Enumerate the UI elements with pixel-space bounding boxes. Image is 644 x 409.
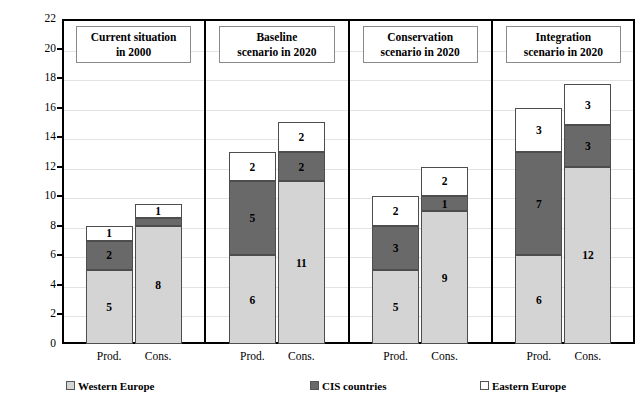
bar-value-label: 6: [230, 295, 275, 307]
y-tick-label: 16: [30, 102, 56, 114]
bar-value-label: 1: [87, 228, 132, 240]
bar-segment[interactable]: [135, 218, 182, 225]
y-tick-label: 14: [30, 131, 56, 143]
stacked-bar[interactable]: 1122: [278, 122, 325, 344]
bar-segment[interactable]: 5: [372, 270, 419, 344]
panel-title-line1: Integration: [507, 30, 620, 45]
y-tick-label: 22: [30, 13, 56, 25]
y-tick-mark: [57, 284, 63, 286]
bar-segment[interactable]: 2: [278, 152, 325, 182]
y-tick-mark: [57, 166, 63, 168]
y-tick-label: 20: [30, 43, 56, 55]
panel-title-line1: Current situation: [77, 30, 190, 45]
legend-swatch-icon: [66, 381, 75, 390]
panel-title-line2: scenario in 2020: [507, 45, 620, 60]
bar-value-label: 2: [373, 206, 418, 218]
stacked-bar[interactable]: 912: [421, 167, 468, 344]
bar-value-label: 9: [422, 273, 467, 285]
panel-title-box: Integrationscenario in 2020: [506, 26, 621, 63]
bar-segment[interactable]: 2: [421, 167, 468, 197]
legend-item[interactable]: Western Europe: [66, 379, 155, 395]
bar-value-label: 8: [136, 280, 181, 292]
stacked-bar-chart: Amount (in million cubic metres) 0246810…: [0, 0, 644, 409]
bar-value-label: 2: [230, 162, 275, 174]
panel-title-box: Conservationscenario in 2020: [363, 26, 478, 63]
y-tick-label: 2: [30, 308, 56, 320]
legend-label: Eastern Europe: [492, 380, 566, 392]
legend-item[interactable]: Eastern Europe: [480, 379, 566, 395]
bar-value-label: 11: [279, 258, 324, 270]
bar-segment[interactable]: 6: [515, 255, 562, 344]
legend-item[interactable]: CIS countries: [310, 379, 386, 395]
bar-segment[interactable]: 3: [372, 226, 419, 270]
bar-segment[interactable]: 2: [372, 196, 419, 226]
stacked-bar[interactable]: 521: [86, 233, 133, 344]
legend-swatch-icon: [310, 381, 319, 390]
stacked-bar[interactable]: 652: [229, 152, 276, 344]
y-tick-label: 12: [30, 161, 56, 173]
stacked-bar[interactable]: 532: [372, 196, 419, 344]
y-tick-label: 8: [30, 220, 56, 232]
stacked-bar[interactable]: 673: [515, 108, 562, 344]
bar-value-label: 1: [136, 206, 181, 218]
y-tick-mark: [57, 254, 63, 256]
legend-swatch-icon: [480, 381, 489, 390]
stacked-bar[interactable]: 81: [135, 205, 182, 344]
y-tick-mark: [57, 77, 63, 79]
panel-title-line1: Conservation: [364, 30, 477, 45]
bar-segment[interactable]: 2: [86, 241, 133, 271]
bar-value-label: 1: [422, 199, 467, 211]
panel-title-line1: Baseline: [220, 30, 333, 45]
panel-title-box: Baselinescenario in 2020: [219, 26, 334, 63]
bar-value-label: 2: [279, 132, 324, 144]
bar-value-label: 6: [516, 295, 561, 307]
bar-segment[interactable]: 3: [564, 125, 611, 166]
y-tick-label: 10: [30, 190, 56, 202]
y-tick-label: 4: [30, 279, 56, 291]
stacked-bar[interactable]: 1233: [564, 84, 611, 344]
bar-value-label: 12: [565, 250, 610, 262]
bar-segment[interactable]: 8: [135, 226, 182, 344]
bar-segment[interactable]: 3: [515, 108, 562, 152]
y-tick-label: 18: [30, 72, 56, 84]
bar-segment[interactable]: 11: [278, 181, 325, 344]
bar-segment[interactable]: 1: [421, 196, 468, 211]
y-tick-mark: [57, 195, 63, 197]
bar-segment[interactable]: 3: [564, 84, 611, 125]
x-tick-label: Cons.: [274, 350, 328, 362]
bar-value-label: 3: [565, 141, 610, 153]
bar-value-label: 2: [279, 162, 324, 174]
bar-segment[interactable]: 2: [229, 152, 276, 182]
bar-value-label: 5: [373, 302, 418, 314]
bar-segment[interactable]: 1: [135, 204, 182, 219]
y-tick-label: 0: [30, 338, 56, 350]
panel-title-box: Current situationin 2000: [76, 26, 191, 63]
legend-label: Western Europe: [78, 380, 155, 392]
bar-value-label: 7: [516, 199, 561, 211]
y-tick-mark: [57, 225, 63, 227]
bar-value-label: 3: [373, 243, 418, 255]
bar-segment[interactable]: 5: [229, 181, 276, 255]
panel-title-line2: in 2000: [77, 45, 190, 60]
bar-value-label: 2: [87, 250, 132, 262]
x-tick-label: Prod.: [225, 350, 279, 362]
bar-segment[interactable]: 1: [86, 226, 133, 241]
x-tick-label: Prod.: [369, 350, 423, 362]
bar-value-label: 5: [87, 302, 132, 314]
panel-divider: [204, 19, 206, 344]
y-tick-mark: [57, 313, 63, 315]
panel-title-line2: scenario in 2020: [364, 45, 477, 60]
x-tick-label: Cons.: [131, 350, 185, 362]
y-tick-label: 6: [30, 249, 56, 261]
x-tick-label: Prod.: [82, 350, 136, 362]
bar-segment[interactable]: 12: [564, 167, 611, 344]
bar-segment[interactable]: 2: [278, 122, 325, 152]
y-tick-mark: [57, 107, 63, 109]
bar-segment[interactable]: 5: [86, 270, 133, 344]
bar-segment[interactable]: 9: [421, 211, 468, 344]
bar-value-label: 3: [565, 100, 610, 112]
bar-segment[interactable]: 7: [515, 152, 562, 255]
y-tick-mark: [57, 48, 63, 50]
bar-segment[interactable]: 6: [229, 255, 276, 344]
x-tick-label: Cons.: [418, 350, 472, 362]
